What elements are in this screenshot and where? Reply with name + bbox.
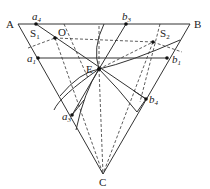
line-a4-b4 bbox=[36, 24, 146, 99]
label-o: O bbox=[58, 26, 66, 38]
label-b: B bbox=[194, 18, 201, 30]
label-b3: b3 bbox=[122, 10, 132, 24]
label-c: C bbox=[99, 176, 106, 188]
point-e bbox=[97, 67, 101, 71]
dash-s2-b bbox=[153, 42, 182, 52]
point-s2 bbox=[151, 40, 155, 44]
arc-lower-left bbox=[54, 69, 99, 110]
tick-b4-2 bbox=[137, 99, 146, 112]
triangle-diagram: A B C O E a4 b3 a1 b1 a3 b4 S1 S2 bbox=[0, 0, 210, 189]
label-b1: b1 bbox=[172, 53, 181, 67]
point-a1 bbox=[36, 56, 40, 60]
label-b4: b4 bbox=[149, 93, 159, 107]
point-b1 bbox=[165, 56, 169, 60]
dash-s2-c bbox=[103, 42, 153, 174]
dash-o-s2 bbox=[55, 38, 153, 42]
dash-a-o bbox=[28, 38, 55, 48]
tick-b4 bbox=[134, 91, 146, 99]
label-s1: S1 bbox=[30, 27, 40, 41]
label-a4: a4 bbox=[32, 10, 42, 24]
point-o bbox=[53, 36, 57, 40]
label-s2: S2 bbox=[160, 27, 170, 41]
arc-center bbox=[60, 40, 180, 96]
label-a3: a3 bbox=[62, 110, 72, 124]
arc-right bbox=[99, 69, 137, 112]
label-e: E bbox=[86, 63, 93, 75]
label-a: A bbox=[6, 18, 14, 30]
point-b4 bbox=[144, 97, 148, 101]
dash-top-right bbox=[140, 24, 160, 102]
dash-e-c bbox=[99, 69, 103, 174]
